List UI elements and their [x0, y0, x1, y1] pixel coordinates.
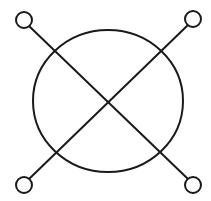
terminal-circle-top-left	[16, 12, 32, 28]
terminal-circle-bottom-left	[16, 177, 32, 193]
crossed-circle-diagram	[0, 0, 211, 201]
terminal-circle-bottom-right	[185, 177, 201, 193]
terminal-circle-top-right	[185, 11, 201, 27]
